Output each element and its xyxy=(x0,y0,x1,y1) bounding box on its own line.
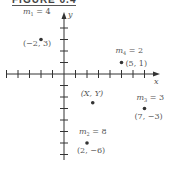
mass-label: m1 = 4 xyxy=(23,7,51,17)
mass-point xyxy=(85,141,89,145)
mass-label: m3 = 3 xyxy=(137,93,165,103)
center-of-mass-label: (X, Y) xyxy=(81,89,103,98)
x-axis-arrow-icon xyxy=(153,72,160,77)
x-axis-label: x xyxy=(154,77,159,86)
mass-label: m2 = 8 xyxy=(79,127,107,137)
y-axis-arrow-icon xyxy=(62,12,67,19)
mass-point xyxy=(120,61,124,65)
coordinate-plane: x y m1 = 4(−2, 3)m4 = 2(5, 1)m3 = 3(7, −… xyxy=(0,0,188,177)
y-axis-label: y xyxy=(67,10,73,19)
mass-point xyxy=(143,107,147,111)
coordinate-label: (7, −3) xyxy=(135,112,163,121)
coordinate-label: (2, −6) xyxy=(77,146,105,155)
coordinate-label: (5, 1) xyxy=(126,59,148,68)
mass-label: m4 = 2 xyxy=(116,46,144,56)
center-of-mass-point xyxy=(91,101,95,105)
coordinate-label: (−2, 3) xyxy=(23,39,51,48)
